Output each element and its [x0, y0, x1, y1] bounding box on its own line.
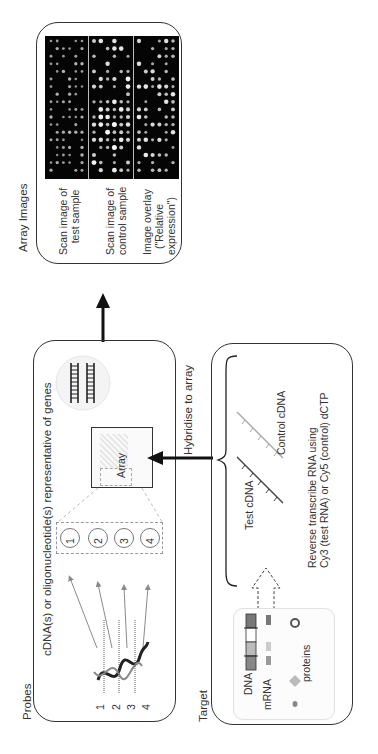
helix-marker-4: 4 [140, 704, 152, 710]
probe-spot-4: 4 [144, 538, 156, 544]
probe-spot-3: 3 [118, 538, 130, 544]
probe-spot-2: 2 [92, 538, 104, 544]
mrna-bars-icon [264, 615, 274, 675]
mrna-label: mRNA [261, 679, 273, 710]
panel-caption-test: Scan image of test sample [57, 188, 81, 255]
hybridise-label: Hybridise to array [182, 365, 194, 455]
proteins-label: proteins [300, 645, 312, 682]
hybrid-duplex-icon [53, 353, 113, 413]
dna-bar-icon [244, 614, 258, 674]
control-cdna-label: Control cDNA [275, 391, 287, 455]
reverse-transcribe-note: Reverse transcribe RNA using Cy3 (test R… [306, 392, 330, 568]
dna-label: DNA [242, 673, 254, 695]
scan-spots [45, 36, 179, 179]
array-scan-image [45, 36, 179, 179]
helix-marker-3: 3 [125, 704, 137, 710]
probes-title: Probes [21, 684, 33, 720]
helix-marker-2: 2 [110, 704, 122, 710]
helix-marker-1: 1 [94, 704, 106, 710]
test-cdna-label: Test cDNA [243, 480, 255, 530]
probe-spot-1: 1 [64, 538, 76, 544]
array-images-title: Array Images [17, 184, 29, 252]
dna-helix-icon [80, 620, 160, 700]
panel-caption-overlay: Image overlay ("Relative expression") [141, 189, 177, 255]
target-title: Target [197, 690, 209, 722]
panel-caption-control: Scan image of control sample [104, 187, 128, 255]
